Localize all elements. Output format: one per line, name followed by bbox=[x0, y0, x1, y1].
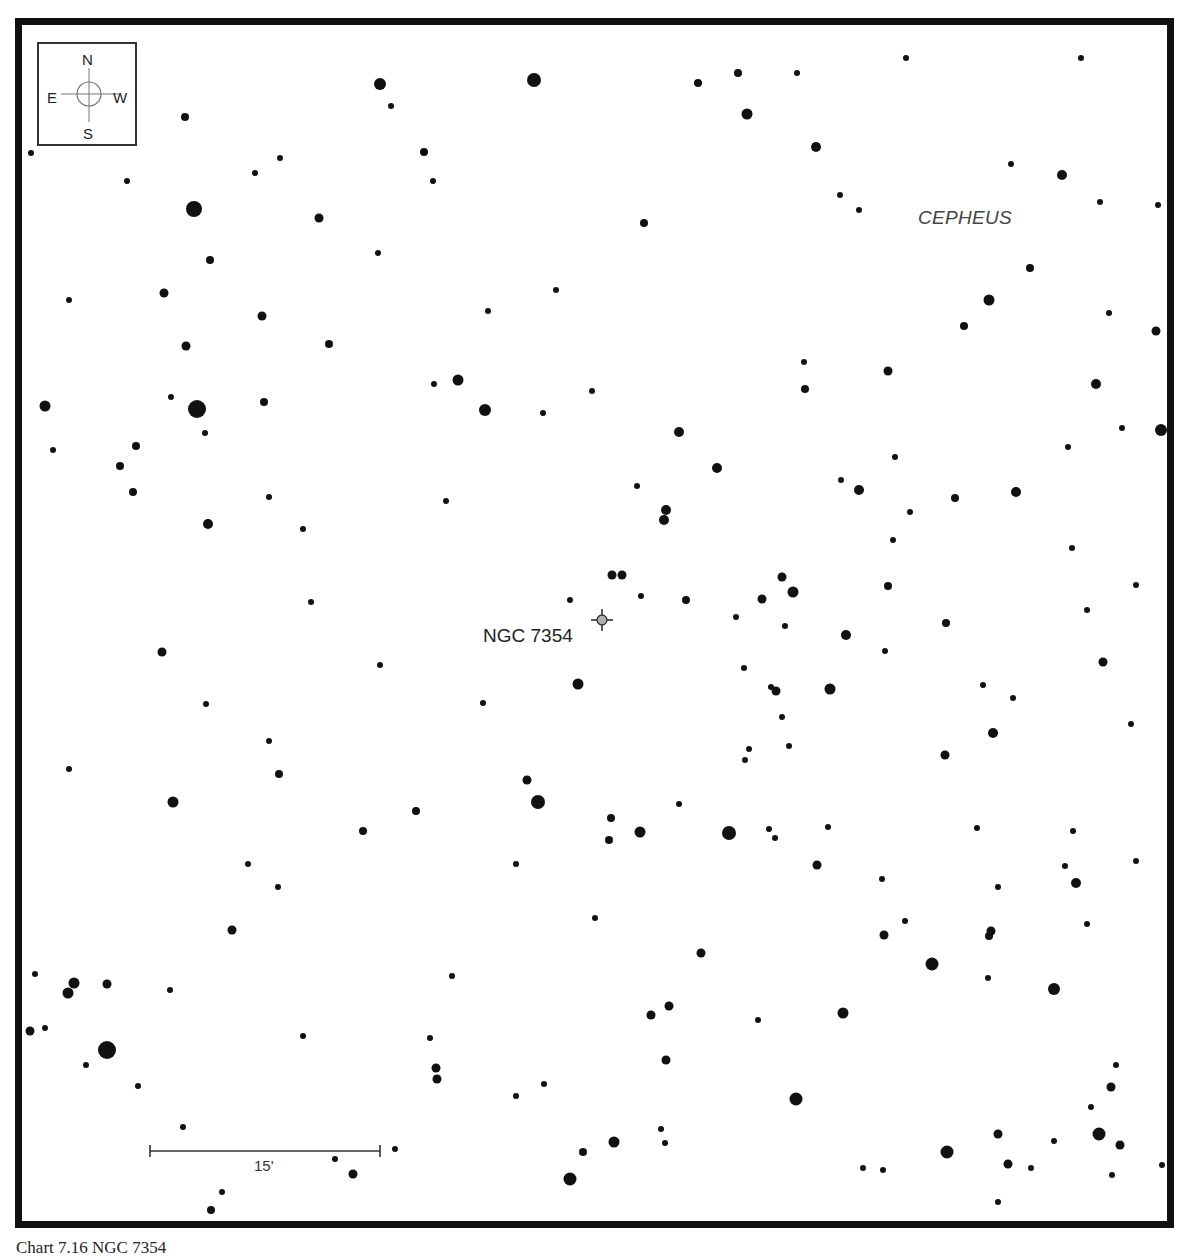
star bbox=[449, 973, 455, 979]
star bbox=[801, 385, 809, 393]
scale-bar bbox=[149, 1144, 381, 1158]
star bbox=[1106, 310, 1112, 316]
star bbox=[260, 398, 268, 406]
star bbox=[635, 827, 646, 838]
star bbox=[167, 987, 173, 993]
star bbox=[377, 662, 383, 668]
star bbox=[742, 757, 748, 763]
star bbox=[1113, 1062, 1119, 1068]
star bbox=[168, 394, 174, 400]
star bbox=[392, 1146, 398, 1152]
star bbox=[228, 926, 237, 935]
star bbox=[275, 770, 283, 778]
star bbox=[722, 826, 736, 840]
star bbox=[1028, 1165, 1034, 1171]
star bbox=[734, 69, 742, 77]
star bbox=[801, 359, 807, 365]
star bbox=[277, 155, 283, 161]
star bbox=[420, 148, 428, 156]
star bbox=[1128, 721, 1134, 727]
star bbox=[540, 410, 546, 416]
star bbox=[66, 766, 72, 772]
star bbox=[207, 1206, 215, 1214]
star bbox=[825, 824, 831, 830]
star bbox=[608, 571, 617, 580]
star bbox=[129, 488, 137, 496]
star bbox=[252, 170, 258, 176]
star bbox=[206, 256, 214, 264]
star bbox=[443, 498, 449, 504]
star bbox=[676, 801, 682, 807]
star bbox=[960, 322, 968, 330]
star bbox=[1008, 161, 1014, 167]
star bbox=[103, 980, 112, 989]
star bbox=[647, 1011, 656, 1020]
star bbox=[880, 1167, 886, 1173]
star bbox=[746, 746, 752, 752]
star bbox=[772, 687, 781, 696]
compass-east-label: E bbox=[47, 90, 57, 105]
star bbox=[607, 814, 615, 822]
star bbox=[1088, 1104, 1094, 1110]
star bbox=[564, 1173, 577, 1186]
star bbox=[160, 289, 169, 298]
star bbox=[181, 113, 189, 121]
star bbox=[1097, 199, 1103, 205]
star bbox=[579, 1148, 587, 1156]
star bbox=[219, 1189, 225, 1195]
star bbox=[98, 1041, 116, 1059]
star bbox=[245, 861, 251, 867]
star bbox=[531, 795, 545, 809]
star bbox=[1065, 444, 1071, 450]
star bbox=[838, 1008, 849, 1019]
star bbox=[694, 79, 702, 87]
star bbox=[758, 595, 767, 604]
star bbox=[951, 494, 959, 502]
star bbox=[892, 454, 898, 460]
star bbox=[66, 297, 72, 303]
star bbox=[375, 250, 381, 256]
star bbox=[995, 884, 1001, 890]
star bbox=[841, 630, 851, 640]
star bbox=[1069, 545, 1075, 551]
star bbox=[182, 342, 191, 351]
star bbox=[1107, 1083, 1116, 1092]
planetary-nebula-marker-icon[interactable] bbox=[590, 608, 614, 632]
star bbox=[349, 1170, 358, 1179]
star bbox=[567, 597, 573, 603]
star bbox=[188, 400, 206, 418]
star bbox=[275, 884, 281, 890]
star bbox=[116, 462, 124, 470]
star bbox=[778, 573, 787, 582]
star bbox=[527, 73, 541, 87]
star bbox=[1119, 425, 1125, 431]
star bbox=[788, 587, 799, 598]
star bbox=[1093, 1128, 1106, 1141]
star bbox=[790, 1093, 803, 1106]
star bbox=[180, 1124, 186, 1130]
star bbox=[856, 207, 862, 213]
object-label-ngc7354: NGC 7354 bbox=[483, 625, 573, 647]
star bbox=[879, 876, 885, 882]
star bbox=[513, 861, 519, 867]
star bbox=[1048, 983, 1060, 995]
star bbox=[884, 582, 892, 590]
star bbox=[203, 701, 209, 707]
star bbox=[674, 427, 684, 437]
star bbox=[1155, 424, 1167, 436]
star bbox=[994, 1130, 1003, 1139]
star bbox=[741, 665, 747, 671]
star bbox=[186, 201, 202, 217]
star bbox=[926, 958, 939, 971]
star bbox=[592, 915, 598, 921]
star bbox=[83, 1062, 89, 1068]
star bbox=[430, 178, 436, 184]
star bbox=[485, 308, 491, 314]
star bbox=[838, 477, 844, 483]
star bbox=[605, 836, 613, 844]
star bbox=[168, 797, 179, 808]
star bbox=[682, 596, 690, 604]
star bbox=[433, 1075, 442, 1084]
star bbox=[266, 494, 272, 500]
star bbox=[658, 1126, 664, 1132]
